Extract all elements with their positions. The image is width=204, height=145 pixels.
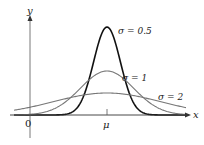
sigma-2-label: σ = 2 (158, 92, 183, 102)
origin-label: 0 (25, 119, 31, 129)
mu-label: μ (103, 120, 110, 130)
sigma-05-label: σ = 0.5 (118, 26, 152, 36)
sigma-1-label: σ = 1 (122, 73, 147, 83)
y-axis-label: y (27, 6, 33, 16)
x-axis-arrow-icon (185, 113, 191, 118)
x-axis-label: x (193, 110, 199, 120)
